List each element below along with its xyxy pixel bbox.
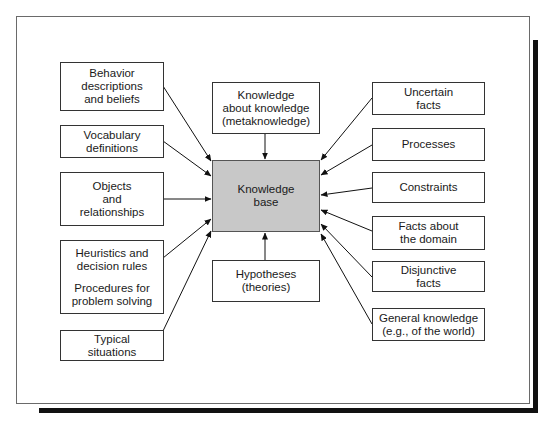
box-line: decision rules — [77, 260, 147, 273]
uncertain-facts-box: Uncertain facts — [372, 82, 485, 115]
box-line: Heuristics and — [76, 247, 149, 260]
hypotheses-box: Hypotheses (theories) — [212, 260, 320, 302]
box-line: Procedures for — [74, 282, 149, 295]
general-knowledge-box: General knowledge (e.g., of the world) — [372, 308, 485, 341]
typical-situations-box: Typical situations — [60, 330, 164, 361]
box-line: Constraints — [399, 181, 457, 194]
box-line: Vocabulary — [84, 129, 141, 142]
box-line: facts — [416, 277, 440, 290]
metaknowledge-line2: about knowledge — [223, 102, 310, 115]
hypotheses-line1: Hypotheses — [236, 268, 297, 281]
box-line: Disjunctive — [401, 264, 457, 277]
behavior-descriptions-box: Behavior descriptions and beliefs — [60, 62, 164, 111]
frame-shadow-bottom — [39, 408, 538, 413]
knowledge-base-label-line2: base — [254, 196, 279, 209]
box-line: and — [102, 193, 121, 206]
box-line: Objects — [93, 180, 132, 193]
box-line: relationships — [80, 206, 145, 219]
box-line: General knowledge — [379, 312, 478, 325]
box-line: facts — [416, 99, 440, 112]
box-line: the domain — [400, 233, 457, 246]
facts-about-domain-box: Facts about the domain — [372, 216, 485, 250]
box-line: descriptions — [81, 80, 142, 93]
box-line: definitions — [86, 142, 138, 155]
metaknowledge-box: Knowledge about knowledge (metaknowledge… — [212, 82, 320, 134]
processes-box: Processes — [372, 128, 485, 161]
box-line: Typical — [94, 333, 130, 346]
vocabulary-definitions-box: Vocabulary definitions — [60, 125, 164, 158]
metaknowledge-line3: (metaknowledge) — [222, 115, 310, 128]
box-line: (e.g., of the world) — [382, 325, 475, 338]
box-line: and beliefs — [84, 93, 140, 106]
heuristics-procedures-box: Heuristics and decision rules Procedures… — [60, 240, 164, 314]
box-line: Uncertain — [404, 86, 453, 99]
box-line: Behavior — [89, 67, 134, 80]
box-line: situations — [88, 346, 137, 359]
box-line: Facts about — [398, 220, 458, 233]
box-line: problem solving — [72, 295, 153, 308]
disjunctive-facts-box: Disjunctive facts — [372, 261, 485, 292]
knowledge-base-label-line1: Knowledge — [238, 183, 295, 196]
constraints-box: Constraints — [372, 172, 485, 203]
knowledge-base-box: Knowledge base — [212, 160, 320, 232]
frame-shadow-right — [533, 40, 538, 413]
objects-relationships-box: Objects and relationships — [60, 172, 164, 226]
box-line: Processes — [402, 138, 456, 151]
metaknowledge-line1: Knowledge — [238, 89, 295, 102]
hypotheses-line2: (theories) — [242, 281, 291, 294]
